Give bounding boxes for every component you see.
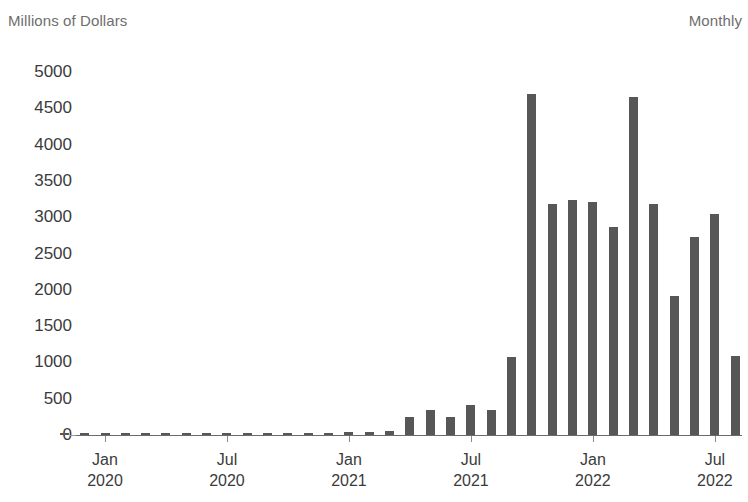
x-tick-year: 2022 [670, 470, 748, 491]
x-axis-line [76, 435, 742, 436]
bar [487, 410, 496, 435]
bar [548, 204, 557, 435]
y-axis-tick-label: 2000 [2, 280, 72, 300]
x-axis-tick-label: Jan2022 [548, 449, 638, 491]
x-tick-year: 2022 [548, 470, 638, 491]
x-tick-month: Jul [670, 449, 748, 470]
y-axis-tick-label: 3000 [2, 207, 72, 227]
bar [466, 405, 475, 435]
y-axis-tick-label: 3500 [2, 171, 72, 191]
bar [609, 227, 618, 435]
x-axis-tick-label: Jan2021 [304, 449, 394, 491]
x-tick-year: 2020 [182, 470, 272, 491]
x-axis-tick-label: Jan2020 [60, 449, 150, 491]
x-axis-tick-label: Jul2021 [426, 449, 516, 491]
x-axis-tick-mark [715, 436, 716, 442]
x-tick-month: Jul [182, 449, 272, 470]
y-axis-tick-label: 2500 [2, 244, 72, 264]
bar [649, 204, 658, 435]
chart-container: Millions of Dollars Monthly 050010001500… [0, 0, 748, 502]
bar [60, 433, 69, 435]
x-axis-tick-mark [349, 436, 350, 442]
y-axis-tick-label: 0 [2, 425, 72, 445]
y-axis-tick-label: 500 [2, 389, 72, 409]
x-tick-month: Jan [304, 449, 394, 470]
y-axis-tick-label: 1500 [2, 316, 72, 336]
x-tick-month: Jul [426, 449, 516, 470]
x-axis-tick-mark [593, 436, 594, 442]
x-tick-year: 2021 [304, 470, 394, 491]
y-axis-tick-label: 1000 [2, 352, 72, 372]
bar [405, 417, 414, 435]
x-axis-tick-mark [471, 436, 472, 442]
bar [670, 296, 679, 435]
bar [690, 237, 699, 435]
bar [629, 97, 638, 435]
bar [507, 357, 516, 435]
x-tick-year: 2021 [426, 470, 516, 491]
x-axis-tick-label: Jul2020 [182, 449, 272, 491]
bar [710, 214, 719, 435]
y-axis-tick-label: 4500 [2, 98, 72, 118]
plot-area: 0500100015002000250030003500400045005000… [0, 0, 748, 502]
y-axis-tick-label: 5000 [2, 62, 72, 82]
x-tick-month: Jan [60, 449, 150, 470]
x-tick-month: Jan [548, 449, 638, 470]
bar [588, 202, 597, 435]
bar [731, 356, 740, 435]
x-axis-tick-mark [105, 436, 106, 442]
bar [426, 410, 435, 435]
x-tick-year: 2020 [60, 470, 150, 491]
x-axis-tick-mark [227, 436, 228, 442]
bar [446, 417, 455, 435]
bar [527, 94, 536, 435]
bar [568, 200, 577, 435]
y-axis-tick-label: 4000 [2, 135, 72, 155]
x-axis-tick-label: Jul2022 [670, 449, 748, 491]
